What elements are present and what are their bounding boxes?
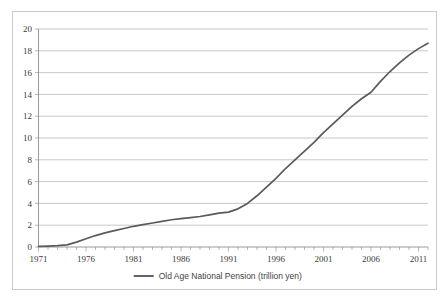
- x-tick-label-1976: 1976: [77, 254, 96, 264]
- legend-label-0[interactable]: Old Age National Pension (trillion yen): [159, 271, 302, 281]
- axis-ticks: [35, 29, 428, 252]
- y-tick-label-2: 2: [28, 220, 33, 230]
- y-tick-label-12: 12: [23, 111, 32, 121]
- y-tick-label-16: 16: [23, 68, 33, 78]
- y-tick-label-10: 10: [23, 133, 33, 143]
- data-series: [39, 43, 429, 246]
- chart-figure: 20181614121086420 1971197619811986199119…: [0, 0, 448, 305]
- x-tick-label-1981: 1981: [125, 254, 143, 264]
- x-tick-label-1986: 1986: [172, 254, 191, 264]
- line-chart: 20181614121086420 1971197619811986199119…: [0, 0, 448, 305]
- x-tick-label-1996: 1996: [267, 254, 286, 264]
- y-tick-label-4: 4: [28, 199, 33, 209]
- y-tick-label-8: 8: [28, 155, 33, 165]
- x-tick-label-2006: 2006: [362, 254, 381, 264]
- x-tick-label-1971: 1971: [30, 254, 48, 264]
- x-tick-label-2001: 2001: [315, 254, 333, 264]
- y-tick-label-18: 18: [23, 46, 33, 56]
- y-tick-label-0: 0: [28, 242, 33, 252]
- series-line-0: [39, 43, 429, 246]
- x-tick-label-2011: 2011: [410, 254, 428, 264]
- y-tick-label-14: 14: [23, 90, 33, 100]
- y-tick-label-20: 20: [23, 24, 33, 34]
- x-axis-tick-labels: 197119761981198619911996200120062011: [30, 254, 428, 264]
- chart-legend[interactable]: Old Age National Pension (trillion yen): [134, 271, 302, 281]
- x-tick-label-1991: 1991: [220, 254, 238, 264]
- y-axis-tick-labels: 20181614121086420: [23, 24, 33, 252]
- y-tick-label-6: 6: [28, 177, 33, 187]
- gridlines: [39, 29, 429, 225]
